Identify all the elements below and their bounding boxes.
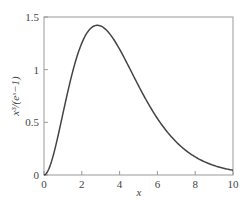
y-tick-label: 0.5	[25, 116, 39, 128]
plot-border	[44, 17, 233, 175]
x-tick-label: 0	[41, 178, 47, 190]
x-tick-label: 4	[117, 178, 123, 190]
data-line	[44, 25, 233, 175]
y-axis-label: x³/(eˣ−1)	[9, 76, 22, 117]
plot-frame	[44, 17, 233, 175]
line-chart: 024681000.511.5 x x³/(eˣ−1)	[0, 0, 251, 203]
y-tick-label: 1.5	[25, 11, 39, 23]
x-tick-label: 10	[228, 178, 240, 190]
x-tick-label: 6	[155, 178, 161, 190]
x-tick-label: 2	[79, 178, 85, 190]
y-tick-label: 1	[34, 64, 40, 76]
y-tick-label: 0	[34, 169, 40, 181]
x-axis-label: x	[136, 186, 142, 198]
x-tick-label: 8	[192, 178, 198, 190]
